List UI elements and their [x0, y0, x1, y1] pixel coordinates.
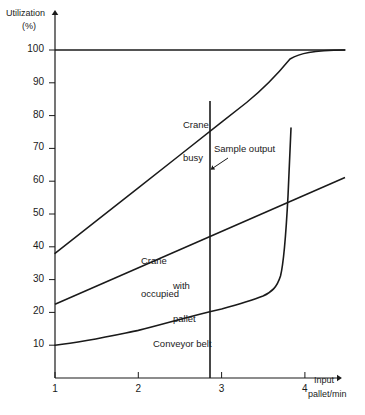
y-tick-label-80: 80: [18, 109, 44, 121]
y-tick-label-90: 90: [18, 76, 44, 88]
y-tick-label-100: 100: [18, 43, 44, 55]
series-label-with-pallet-line1: with: [173, 281, 196, 292]
x-axis-title: Input: [314, 375, 334, 385]
y-tick-label-50: 50: [18, 207, 44, 219]
y-tick-label-10: 10: [18, 338, 44, 350]
x-tick-label-2: 2: [130, 383, 146, 395]
chart-page: Utilization (%) Input pallet/min 100 90 …: [0, 0, 365, 415]
series-label-with-pallet: with pallet: [173, 259, 196, 346]
series-label-crane-busy-line1: Crane: [183, 120, 209, 131]
y-tick-label-70: 70: [18, 141, 44, 153]
y-axis-unit-label: (%): [22, 21, 36, 31]
x-axis-unit-label: pallet/min: [308, 389, 347, 399]
y-tick-label-30: 30: [18, 273, 44, 285]
y-axis-ticks: [49, 50, 55, 345]
x-axis-ticks: [55, 372, 305, 378]
y-axis-title: Utilization: [6, 8, 45, 18]
series-label-conveyor-belt: Conveyor belt: [153, 339, 212, 350]
utilization-chart-plot: [0, 0, 365, 415]
series-label-crane-busy: Crane busy: [183, 98, 209, 185]
x-tick-label-1: 1: [47, 383, 63, 395]
sample-output-arrow: [213, 158, 228, 168]
series-crane-occupied-with-pallet: [55, 178, 345, 305]
y-tick-label-60: 60: [18, 174, 44, 186]
x-tick-label-3: 3: [214, 383, 230, 395]
y-tick-label-40: 40: [18, 240, 44, 252]
y-tick-label-20: 20: [18, 305, 44, 317]
series-label-with-pallet-line2: pallet: [173, 314, 196, 325]
x-tick-label-4: 4: [297, 383, 313, 395]
annotation-label-sample-output: Sample output: [214, 144, 275, 155]
series-label-crane-busy-line2: busy: [183, 153, 209, 164]
